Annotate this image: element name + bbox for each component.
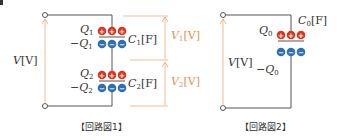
circuit2-source-voltage-label: V[V] [228, 56, 252, 69]
circuit1-terminal-bottom [43, 104, 48, 109]
svg-text:−: − [119, 85, 125, 93]
svg-text:+: + [298, 32, 304, 40]
c2-capacitance-label: C2[F] [128, 77, 157, 91]
circuit-diagrams: +++ −−− +++ −−− +++ −−− [0, 0, 348, 140]
svg-text:−: − [288, 49, 294, 57]
svg-text:−: − [99, 41, 105, 49]
c2-positive-charge-label: Q2 [80, 67, 94, 81]
svg-text:+: + [109, 72, 115, 80]
svg-text:−: − [119, 41, 125, 49]
svg-text:+: + [278, 32, 284, 40]
c0-negative-charge-label: −Q0 [256, 63, 279, 77]
c1-positive-charge-label: Q1 [80, 23, 94, 37]
circuit1-terminal-top [43, 13, 48, 18]
svg-text:+: + [99, 72, 105, 80]
circuit1-caption: 【回路図1】 [76, 120, 127, 133]
svg-text:+: + [119, 28, 125, 36]
svg-text:−: − [109, 85, 115, 93]
svg-text:+: + [109, 28, 115, 36]
c2-negative-charge-label: −Q2 [70, 81, 93, 95]
svg-text:+: + [99, 28, 105, 36]
voltage-brackets [123, 16, 168, 106]
svg-text:+: + [119, 72, 125, 80]
circuit1-source-voltage-label: V[V] [13, 54, 37, 67]
circuit2-caption: 【回路図2】 [240, 120, 291, 133]
v1-label: V1[V] [171, 29, 200, 43]
svg-text:−: − [298, 49, 304, 57]
corner-artifact [0, 0, 3, 5]
c1-capacitance-label: C1[F] [128, 33, 157, 47]
circuit1-source-voltage-arrow [42, 19, 48, 104]
v2-label: V2[V] [171, 75, 200, 89]
circuit2-source-voltage-arrow [220, 19, 226, 106]
svg-text:+: + [288, 32, 294, 40]
c0-capacitance-label: C0[F] [298, 14, 327, 28]
c0-positive-charge-label: Q0 [259, 24, 273, 38]
c1-negative-charge-label: −Q1 [70, 37, 93, 51]
circuit2-terminal-bottom [221, 106, 226, 111]
circuit2-terminal-top [221, 13, 226, 18]
svg-text:−: − [109, 41, 115, 49]
svg-text:−: − [278, 49, 284, 57]
svg-text:−: − [99, 85, 105, 93]
